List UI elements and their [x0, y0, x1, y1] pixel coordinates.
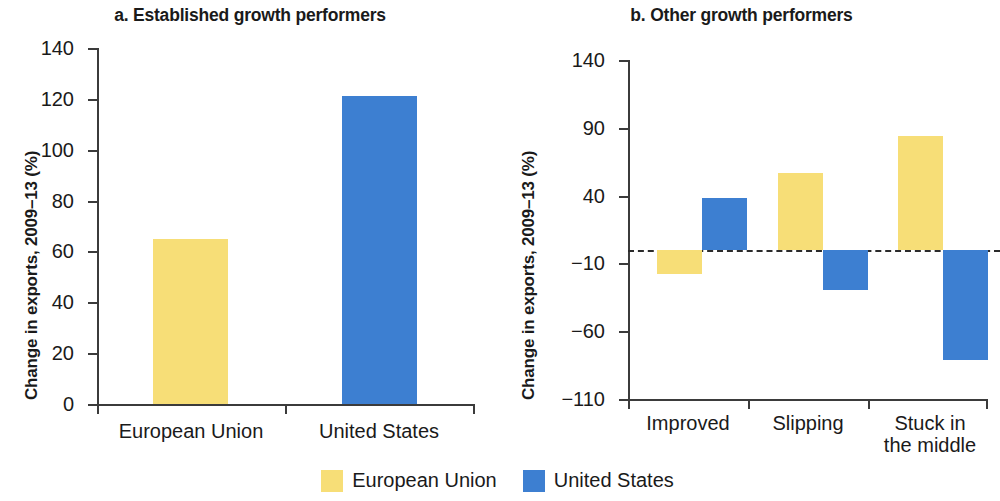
bar-stuck-in-the-middle-european-union[interactable]: [898, 136, 943, 250]
panel-a-ytick-label-0: 0: [63, 393, 74, 416]
panel-b-x-axis-line: [628, 399, 988, 401]
panel-b: b. Other growth performers Change in exp…: [500, 0, 995, 501]
panel-b-xtick-1: [748, 399, 750, 409]
panel-a-ytick-60: 60: [88, 251, 97, 253]
panel-b-ytick-neg60: −60: [619, 331, 628, 333]
panel-a-ytick-label-120: 120: [41, 87, 74, 110]
panel-a-y-axis-line: [97, 48, 99, 404]
legend-label-united-states: United States: [554, 469, 674, 492]
panel-b-y-axis-title: Change in exports, 2009–13 (%): [519, 151, 539, 400]
panel-a-category-label-european-union: European Union: [119, 420, 264, 442]
panel-b-y-axis-line: [628, 60, 630, 399]
panel-b-title: b. Other growth performers: [494, 5, 989, 26]
panel-b-category-label-slipping: Slipping: [772, 412, 843, 434]
panel-b-xtick-0: [628, 399, 630, 409]
bar-improved-european-union[interactable]: [657, 250, 702, 274]
panel-a-ytick-0: 0: [88, 404, 97, 406]
bar-improved-united-states[interactable]: [702, 198, 747, 250]
panel-b-ytick-neg110: −110: [619, 399, 628, 401]
bar-panel-a-united-states[interactable]: [342, 96, 417, 404]
panel-b-ytick-label-90: 90: [583, 116, 605, 139]
panel-b-xtick-2: [868, 399, 870, 409]
chart-legend: European Union United States: [0, 469, 995, 492]
panel-b-category-label-stuck-line1: Stuck in: [894, 412, 965, 434]
panel-a-ytick-label-100: 100: [41, 138, 74, 161]
panel-a-ytick-140: 140: [88, 48, 97, 50]
panel-a-ytick-label-20: 20: [52, 342, 74, 365]
panel-b-xtick-3: [986, 399, 988, 409]
panel-b-ytick-label-neg60: −60: [571, 320, 605, 343]
legend-label-european-union: European Union: [352, 469, 497, 492]
panel-a-ytick-label-40: 40: [52, 291, 74, 314]
panel-b-plot-area: 140 90 40 −10 −60 −110: [628, 60, 988, 399]
panel-b-ytick-label-40: 40: [583, 184, 605, 207]
bar-slipping-european-union[interactable]: [778, 173, 823, 250]
panel-b-ytick-40: 40: [619, 196, 628, 198]
panel-b-ytick-140: 140: [619, 60, 628, 62]
panel-a-ytick-40: 40: [88, 302, 97, 304]
legend-swatch-european-union: [321, 470, 343, 492]
panel-b-ytick-label-140: 140: [572, 49, 605, 72]
bar-panel-a-european-union[interactable]: [153, 239, 228, 404]
legend-item-united-states: United States: [523, 469, 674, 492]
panel-a-xtick-right: [473, 404, 475, 414]
legend-item-european-union: European Union: [321, 469, 497, 492]
panel-b-ytick-label-neg10: −10: [571, 252, 605, 275]
panel-a-category-label-united-states: United States: [319, 420, 439, 442]
panel-a-xtick-mid: [285, 404, 287, 414]
panel-a-y-axis-title: Change in exports, 2009–13 (%): [22, 151, 42, 400]
panel-a-ytick-label-60: 60: [52, 240, 74, 263]
bar-stuck-in-the-middle-united-states[interactable]: [943, 250, 988, 360]
panel-a-title: a. Established growth performers: [0, 5, 500, 26]
panel-a-ytick-100: 100: [88, 150, 97, 152]
panel-a: a. Established growth performers Change …: [0, 0, 500, 501]
panel-a-ytick-80: 80: [88, 201, 97, 203]
panel-a-ytick-20: 20: [88, 353, 97, 355]
panel-a-ytick-label-140: 140: [41, 37, 74, 60]
panel-b-category-label-stuck-line2: the middle: [884, 434, 976, 456]
panel-b-category-label-stuck-in-the-middle: Stuck in the middle: [884, 412, 976, 457]
panel-b-ytick-neg10: −10: [619, 263, 628, 265]
panel-b-ytick-label-neg110: −110: [561, 388, 605, 411]
panel-a-plot-area: 140 120 100 80 60 40 20 0: [97, 48, 475, 404]
panel-b-ytick-90: 90: [619, 128, 628, 130]
panel-a-xtick-left: [97, 404, 99, 414]
panel-a-ytick-120: 120: [88, 99, 97, 101]
panel-a-ytick-label-80: 80: [52, 189, 74, 212]
bar-slipping-united-states[interactable]: [823, 250, 868, 291]
legend-swatch-united-states: [523, 470, 545, 492]
panel-b-category-label-improved: Improved: [646, 412, 729, 434]
